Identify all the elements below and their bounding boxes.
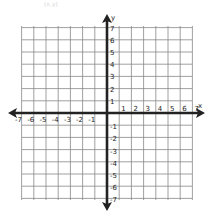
y-tick-label: -6: [110, 184, 118, 192]
x-tick-label: -7: [15, 116, 22, 124]
x-tick-label: -3: [64, 116, 71, 124]
x-tick-label: 4: [158, 105, 163, 113]
coordinate-plane: xy-7-6-5-4-3-2-112345677654321-1-2-3-4-5…: [0, 0, 213, 214]
x-tick-label: 3: [146, 105, 150, 113]
x-tick-label: -1: [88, 116, 95, 124]
x-tick-label: -6: [27, 116, 35, 124]
y-tick-label: 3: [110, 73, 114, 81]
y-tick-label: 2: [110, 86, 114, 94]
y-tick-label: -1: [110, 123, 117, 131]
y-axis-label: y: [111, 14, 115, 22]
y-tick-label: 7: [110, 25, 114, 33]
y-tick-label: -7: [110, 196, 117, 204]
x-tick-label: 6: [182, 105, 187, 113]
tick-labels: xy-7-6-5-4-3-2-112345677654321-1-2-3-4-5…: [15, 14, 202, 204]
y-tick-label: -5: [110, 172, 117, 180]
y-tick-label: -2: [110, 135, 117, 143]
axes: [8, 14, 205, 211]
x-tick-label: 2: [133, 105, 137, 113]
y-tick-label: 6: [110, 37, 115, 45]
y-tick-label: 4: [110, 61, 115, 69]
x-tick-label: -2: [76, 116, 83, 124]
x-tick-label: 5: [170, 105, 174, 113]
x-tick-label: -4: [52, 116, 60, 124]
y-tick-label: 5: [110, 49, 114, 57]
x-tick-label: 7: [194, 105, 198, 113]
x-tick-label: -5: [40, 116, 47, 124]
y-tick-label: -3: [110, 148, 117, 156]
y-tick-label: -4: [110, 160, 118, 168]
x-tick-label: 1: [121, 105, 125, 113]
y-tick-label: 1: [110, 98, 114, 106]
